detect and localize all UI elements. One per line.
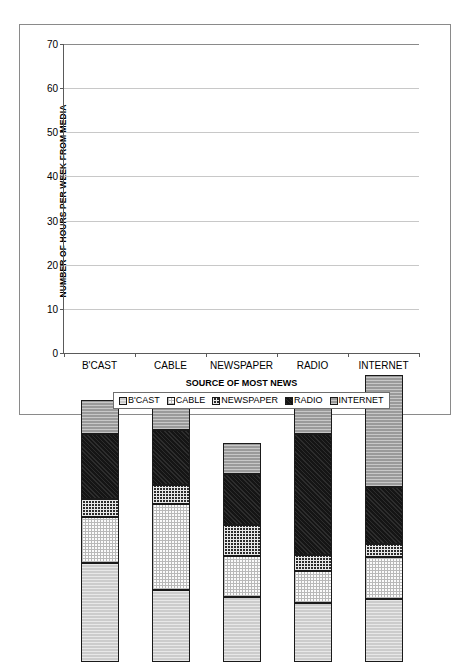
x-tick-mark bbox=[206, 353, 207, 357]
x-tick-label-internet: INTERNET bbox=[359, 360, 409, 371]
legend-item-label: B'CAST bbox=[128, 396, 160, 405]
bar-segment-cable bbox=[81, 517, 119, 562]
legend-swatch-icon bbox=[285, 397, 293, 405]
y-tick-mark bbox=[60, 221, 64, 222]
y-tick-mark bbox=[60, 176, 64, 177]
bar-segment-internet bbox=[223, 443, 261, 475]
gridline bbox=[64, 221, 419, 222]
x-axis-title: SOURCE OF MOST NEWS bbox=[64, 378, 419, 388]
x-tick-label-bcast: B'CAST bbox=[82, 360, 117, 371]
bar-segment-bcast bbox=[223, 597, 261, 662]
bar-segment-bcast bbox=[152, 590, 190, 662]
y-tick-label: 70 bbox=[47, 39, 58, 50]
bar-segment-cable bbox=[223, 556, 261, 597]
bar-segment-radio bbox=[294, 434, 332, 555]
bar-segment-newspaper bbox=[294, 555, 332, 571]
plot-inner: 010203040506070 bbox=[64, 44, 419, 353]
legend-swatch-icon bbox=[119, 397, 127, 405]
legend-item-internet[interactable]: INTERNET bbox=[330, 396, 384, 405]
x-tick-mark bbox=[135, 353, 136, 357]
y-tick-mark bbox=[60, 265, 64, 266]
y-tick-mark bbox=[60, 88, 64, 89]
legend-item-label: NEWSPAPER bbox=[221, 396, 278, 405]
y-tick-label: 10 bbox=[47, 303, 58, 314]
legend-swatch-icon bbox=[330, 397, 338, 405]
gridline bbox=[64, 132, 419, 133]
legend-item-cable[interactable]: CABLE bbox=[167, 396, 206, 405]
y-tick-label: 0 bbox=[52, 348, 58, 359]
y-tick-mark bbox=[60, 309, 64, 310]
y-tick-label: 30 bbox=[47, 215, 58, 226]
x-tick-label-cable: CABLE bbox=[154, 360, 187, 371]
bar-segment-newspaper bbox=[152, 485, 190, 504]
gridline bbox=[64, 309, 419, 310]
x-tick-mark bbox=[419, 353, 420, 357]
bar-segment-newspaper bbox=[365, 544, 403, 558]
bar-segment-cable bbox=[152, 504, 190, 591]
bar-segment-newspaper bbox=[223, 525, 261, 556]
y-tick-mark bbox=[60, 44, 64, 45]
bar-segment-radio bbox=[365, 487, 403, 544]
bar-segment-bcast bbox=[294, 603, 332, 662]
bar-segment-bcast bbox=[81, 563, 119, 662]
bar-segment-radio bbox=[81, 434, 119, 498]
legend-item-radio[interactable]: RADIO bbox=[285, 396, 323, 405]
y-tick-mark bbox=[60, 132, 64, 133]
bar-segment-radio bbox=[223, 474, 261, 525]
legend-item-label: CABLE bbox=[176, 396, 206, 405]
gridline bbox=[64, 44, 419, 45]
plot-area: 010203040506070 SOURCE OF MOST NEWS B'CA… bbox=[63, 44, 419, 354]
gridline bbox=[64, 88, 419, 89]
x-tick-mark bbox=[64, 353, 65, 357]
x-tick-mark bbox=[277, 353, 278, 357]
legend-swatch-icon bbox=[212, 397, 220, 405]
bar-segment-cable bbox=[365, 557, 403, 598]
gridline bbox=[64, 176, 419, 177]
bar-segment-bcast bbox=[365, 599, 403, 662]
legend-swatch-icon bbox=[167, 397, 175, 405]
legend-item-label: RADIO bbox=[294, 396, 323, 405]
bar-segment-cable bbox=[294, 571, 332, 603]
legend-item-newspaper[interactable]: NEWSPAPER bbox=[212, 396, 278, 405]
chart-legend: B'CASTCABLENEWSPAPERRADIOINTERNET bbox=[113, 392, 390, 409]
y-tick-label: 60 bbox=[47, 83, 58, 94]
gridline bbox=[64, 265, 419, 266]
legend-item-label: INTERNET bbox=[339, 396, 384, 405]
x-tick-label-radio: RADIO bbox=[297, 360, 329, 371]
bar-segment-newspaper bbox=[81, 499, 119, 518]
x-tick-label-newspaper: NEWSPAPER bbox=[210, 360, 273, 371]
x-tick-mark bbox=[348, 353, 349, 357]
legend-item-bcast[interactable]: B'CAST bbox=[119, 396, 160, 405]
y-tick-label: 50 bbox=[47, 127, 58, 138]
bar-segment-radio bbox=[152, 430, 190, 485]
y-tick-label: 40 bbox=[47, 171, 58, 182]
y-tick-label: 20 bbox=[47, 259, 58, 270]
